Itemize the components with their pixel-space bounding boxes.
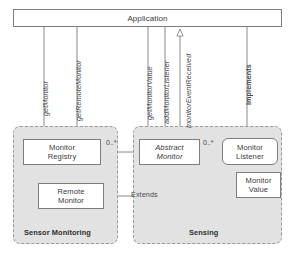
label-monitor-event-received: monitorEventReceived — [184, 54, 193, 128]
node-monitor-listener[interactable]: Monitor Listener — [222, 138, 278, 165]
multiplicity-abstract-listener: 0..* — [203, 139, 214, 146]
node-abstract-monitor-line1: Abstract — [155, 143, 184, 152]
package-sensing-label: Sensing — [189, 228, 218, 237]
node-monitor-registry-line2: Registry — [48, 152, 77, 161]
node-monitor-registry-line1: Monitor — [48, 143, 77, 152]
package-sensor-monitoring-label: Sensor Monitoring — [24, 228, 91, 237]
label-get-remote-monitor: getRemoteMonitor — [74, 60, 83, 121]
node-monitor-value-line1: Monitor — [245, 176, 271, 185]
node-monitor-listener-line2: Listener — [236, 152, 264, 161]
label-add-monitor-listener: addMonitorListener — [162, 61, 171, 124]
node-remote-monitor-line2: Monitor — [57, 196, 84, 205]
node-monitor-value-line2: Value — [245, 185, 271, 194]
node-abstract-monitor[interactable]: Abstract Monitor — [139, 139, 200, 165]
application-node[interactable]: Application — [13, 9, 282, 27]
node-remote-monitor-line1: Remote — [57, 187, 84, 196]
multiplicity-registry-abstract: 0..* — [106, 139, 117, 146]
node-abstract-monitor-line2: Monitor — [155, 152, 184, 161]
label-get-monitor-value: getMonitorValue — [145, 66, 154, 120]
application-label: Application — [127, 14, 167, 23]
uml-diagram-canvas: Application Sensor Monitoring Sensing Mo… — [0, 0, 295, 255]
label-implements: Implements — [244, 64, 253, 105]
node-monitor-listener-line1: Monitor — [236, 143, 264, 152]
node-monitor-registry[interactable]: Monitor Registry — [23, 139, 101, 165]
label-get-monitor: getMonitor — [41, 81, 50, 116]
label-extends: Extends — [131, 190, 158, 199]
node-monitor-value[interactable]: Monitor Value — [236, 172, 281, 198]
node-remote-monitor[interactable]: Remote Monitor — [38, 183, 104, 209]
